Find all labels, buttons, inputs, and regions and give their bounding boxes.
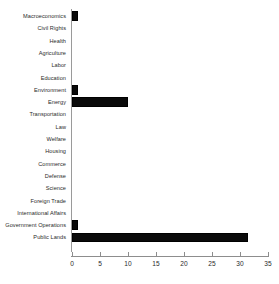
bar-row: Civil Rights bbox=[0, 22, 279, 34]
bar-row: Commerce bbox=[0, 158, 279, 170]
x-tick-mark bbox=[100, 252, 101, 257]
bar-row: Education bbox=[0, 72, 279, 84]
bar-row: Government Operations bbox=[0, 219, 279, 231]
category-label: International Affairs bbox=[0, 207, 66, 219]
bar-row: Environment bbox=[0, 84, 279, 96]
bar-row: Housing bbox=[0, 145, 279, 157]
x-tick-label: 0 bbox=[62, 259, 82, 268]
category-label: Science bbox=[0, 182, 66, 194]
bar-row: Transportation bbox=[0, 108, 279, 120]
bar-chart: MacroeconomicsCivil RightsHealthAgricult… bbox=[0, 0, 279, 284]
bar bbox=[72, 220, 78, 230]
category-label: Labor bbox=[0, 59, 66, 71]
x-tick-mark bbox=[156, 252, 157, 257]
category-label: Macroeconomics bbox=[0, 10, 66, 22]
x-tick-label: 30 bbox=[230, 259, 250, 268]
bar bbox=[71, 60, 72, 70]
x-tick-mark bbox=[128, 252, 129, 257]
x-tick-label: 20 bbox=[174, 259, 194, 268]
bar bbox=[72, 97, 128, 107]
category-label: Public Lands bbox=[0, 231, 66, 243]
bar-row: Foreign Trade bbox=[0, 195, 279, 207]
category-label: Civil Rights bbox=[0, 22, 66, 34]
category-label: Education bbox=[0, 72, 66, 84]
x-tick-label: 10 bbox=[118, 259, 138, 268]
category-label: Health bbox=[0, 35, 66, 47]
category-label: Defense bbox=[0, 170, 66, 182]
bar bbox=[71, 23, 72, 33]
bar bbox=[72, 85, 78, 95]
category-label: Welfare bbox=[0, 133, 66, 145]
category-label: Commerce bbox=[0, 158, 66, 170]
bar bbox=[72, 11, 78, 21]
bar bbox=[71, 36, 72, 46]
bar bbox=[72, 233, 248, 243]
category-label: Energy bbox=[0, 96, 66, 108]
bar bbox=[71, 146, 72, 156]
bar-row: Law bbox=[0, 121, 279, 133]
x-tick-mark bbox=[240, 252, 241, 257]
category-label: Government Operations bbox=[0, 219, 66, 231]
category-label: Law bbox=[0, 121, 66, 133]
bar bbox=[71, 73, 72, 83]
x-tick-mark bbox=[72, 252, 73, 257]
category-label: Foreign Trade bbox=[0, 195, 66, 207]
bar-row: Defense bbox=[0, 170, 279, 182]
bar-row: Agriculture bbox=[0, 47, 279, 59]
bar-row: Public Lands bbox=[0, 231, 279, 243]
bar bbox=[71, 171, 72, 181]
bar bbox=[71, 159, 72, 169]
category-label: Agriculture bbox=[0, 47, 66, 59]
bar-row: Health bbox=[0, 35, 279, 47]
bar-row: International Affairs bbox=[0, 207, 279, 219]
bar bbox=[71, 48, 72, 58]
bar-row: Macroeconomics bbox=[0, 10, 279, 22]
x-tick-mark bbox=[268, 252, 269, 257]
bar bbox=[71, 122, 72, 132]
bar bbox=[71, 208, 72, 218]
bar-row: Energy bbox=[0, 96, 279, 108]
x-tick-label: 15 bbox=[146, 259, 166, 268]
x-tick-mark bbox=[184, 252, 185, 257]
category-label: Environment bbox=[0, 84, 66, 96]
bar bbox=[71, 110, 72, 120]
bar bbox=[71, 196, 72, 206]
bar-row: Science bbox=[0, 182, 279, 194]
bar bbox=[71, 134, 72, 144]
bar-row: Labor bbox=[0, 59, 279, 71]
category-label: Housing bbox=[0, 145, 66, 157]
x-tick-label: 5 bbox=[90, 259, 110, 268]
bar bbox=[71, 183, 72, 193]
x-tick-label: 25 bbox=[202, 259, 222, 268]
x-tick-label: 35 bbox=[258, 259, 278, 268]
category-label: Transportation bbox=[0, 108, 66, 120]
plot-area: MacroeconomicsCivil RightsHealthAgricult… bbox=[0, 0, 279, 284]
x-tick-mark bbox=[212, 252, 213, 257]
bar-row: Welfare bbox=[0, 133, 279, 145]
